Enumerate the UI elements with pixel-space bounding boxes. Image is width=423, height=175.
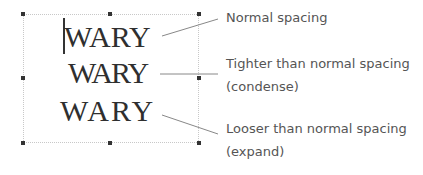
label-condensed: Tighter than normal spacing (condense) — [226, 52, 410, 98]
label-condensed-line2: (condense) — [226, 75, 410, 98]
label-condensed-line1: Tighter than normal spacing — [226, 52, 410, 75]
label-expanded-line2: (expand) — [226, 140, 407, 163]
label-expanded-line1: Looser than normal spacing — [226, 117, 407, 140]
label-normal: Normal spacing — [226, 6, 327, 29]
label-normal-line1: Normal spacing — [226, 6, 327, 29]
label-expanded: Looser than normal spacing (expand) — [226, 117, 407, 163]
